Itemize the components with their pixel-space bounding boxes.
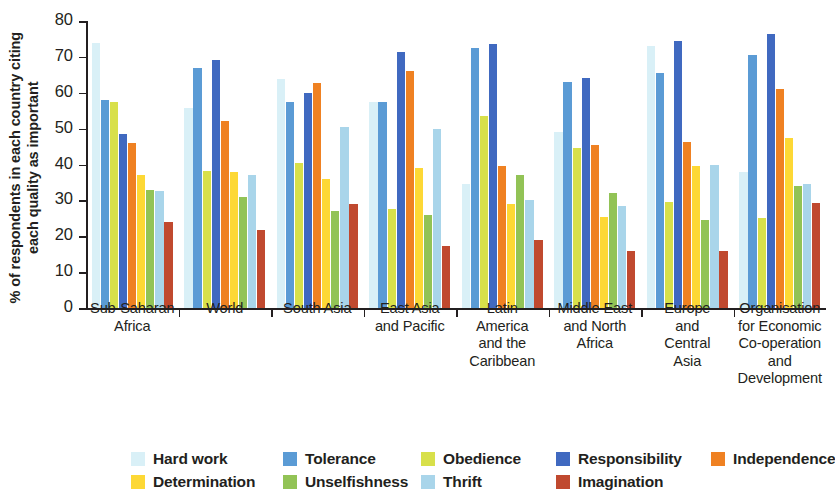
bar [776, 89, 784, 308]
bar [647, 46, 655, 308]
y-axis-tick-label: 30 [55, 189, 73, 208]
legend-label: Independence [733, 450, 835, 468]
legend-swatch [711, 452, 725, 466]
bar [369, 102, 377, 308]
y-axis-tick: 80 [79, 21, 86, 23]
legend-item-tolerance[interactable]: Tolerance [283, 450, 376, 468]
y-axis-tick-label: 80 [55, 10, 73, 29]
bar [794, 186, 802, 308]
bar [803, 184, 811, 308]
bar [415, 168, 423, 308]
bar [378, 102, 386, 308]
bar [812, 203, 820, 308]
legend-label: Unselfishness [305, 473, 408, 491]
x-axis-category-label: World [179, 300, 272, 318]
legend-swatch [556, 452, 570, 466]
x-axis-category-label: Sub-SaharanAfrica [86, 300, 179, 335]
y-axis-tick-label: 10 [55, 261, 73, 280]
legend-row-primary: Hard workToleranceObedienceResponsibilit… [131, 447, 831, 470]
y-axis-tick: 10 [79, 272, 86, 274]
bar [193, 68, 201, 308]
bar [340, 127, 348, 308]
legend-item-unselfishness[interactable]: Unselfishness [283, 473, 408, 491]
legend-item-obedience[interactable]: Obedience [421, 450, 521, 468]
bar-group [734, 21, 827, 308]
bar [582, 78, 590, 308]
legend-swatch [283, 475, 297, 489]
y-axis-tick: 40 [79, 165, 86, 167]
legend-row-secondary: DeterminationUnselfishnessThriftImaginat… [131, 470, 831, 493]
legend-label: Hard work [153, 450, 227, 468]
bar [397, 52, 405, 309]
bar [164, 222, 172, 308]
bar [573, 148, 581, 308]
bar [146, 190, 154, 308]
legend-label: Imagination [578, 473, 663, 491]
x-axis-category-label: LatinAmericaand theCaribbean [456, 300, 549, 370]
x-axis-category-label: EuropeandCentralAsia [641, 300, 734, 370]
legend-item-imagination[interactable]: Imagination [556, 473, 663, 491]
bar [304, 93, 312, 308]
legend-item-independence[interactable]: Independence [711, 450, 835, 468]
bar [618, 206, 626, 308]
legend-label: Tolerance [305, 450, 376, 468]
bar [554, 132, 562, 308]
bar [313, 83, 321, 308]
bar [480, 116, 488, 308]
y-axis-tick-label: 60 [55, 82, 73, 101]
bar [92, 43, 100, 308]
bar [498, 166, 506, 308]
bar [701, 220, 709, 308]
bar-group [364, 21, 457, 308]
bar [406, 71, 414, 308]
bar [155, 191, 163, 308]
bar [248, 175, 256, 308]
bar [462, 184, 470, 308]
bar [471, 48, 479, 308]
y-axis-tick: 20 [79, 236, 86, 238]
y-axis-tick-label: 50 [55, 118, 73, 137]
bar [388, 209, 396, 308]
legend-item-thrift[interactable]: Thrift [421, 473, 482, 491]
legend-item-hard-work[interactable]: Hard work [131, 450, 227, 468]
y-axis-tick: 50 [79, 129, 86, 131]
bar [128, 143, 136, 308]
x-axis-category-label: South Asia [271, 300, 364, 318]
bar [277, 79, 285, 308]
legend-label: Determination [153, 473, 255, 491]
bar [295, 163, 303, 308]
y-axis-tick: 70 [79, 57, 86, 59]
bar [433, 129, 441, 308]
legend-item-responsibility[interactable]: Responsibility [556, 450, 682, 468]
bar [683, 142, 691, 308]
bar [203, 171, 211, 308]
bar-group [549, 21, 642, 308]
bar [349, 204, 357, 308]
bar-group [271, 21, 364, 308]
legend-swatch [421, 475, 435, 489]
bar [600, 217, 608, 308]
y-axis-tick-label: 20 [55, 225, 73, 244]
legend-swatch [131, 475, 145, 489]
x-axis-category-label: Middle Eastand NorthAfrica [549, 300, 642, 353]
legend-item-determination[interactable]: Determination [131, 473, 255, 491]
y-axis-tick: 30 [79, 200, 86, 202]
bar [239, 197, 247, 308]
legend-swatch [421, 452, 435, 466]
legend-label: Obedience [443, 450, 521, 468]
bar-group [456, 21, 549, 308]
bar [692, 166, 700, 308]
bar [489, 44, 497, 308]
bar [322, 179, 330, 308]
bar [221, 121, 229, 308]
bar-group [179, 21, 272, 308]
legend-label: Responsibility [578, 450, 682, 468]
bar [785, 138, 793, 308]
bar [286, 102, 294, 308]
legend-swatch [283, 452, 297, 466]
bar [767, 34, 775, 308]
bar [591, 145, 599, 308]
bar [758, 218, 766, 308]
bar-group [86, 21, 179, 308]
